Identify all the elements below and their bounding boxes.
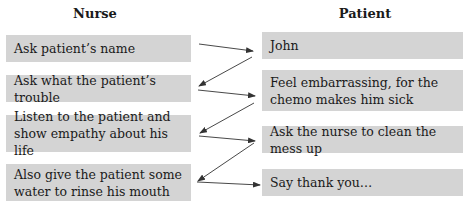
patient-column-title: Patient (310, 6, 420, 21)
nurse-step-2: Ask what the patient’s trouble (6, 75, 191, 102)
arrow-patient1-to-nurse2 (199, 57, 252, 86)
nurse-step-2-text: Ask what the patient’s trouble (14, 72, 191, 106)
patient-reply-1: John (262, 32, 463, 59)
nurse-step-3: Listen to the patient and show empathy a… (6, 115, 191, 152)
nurse-step-1: Ask patient’s name (6, 35, 191, 62)
patient-reply-4: Say thank you… (262, 169, 463, 196)
arrow-nurse1-to-patient1 (199, 44, 253, 51)
nurse-column-title: Nurse (40, 6, 150, 21)
nurse-step-1-text: Ask patient’s name (14, 40, 135, 57)
nurse-step-3-text: Listen to the patient and show empathy a… (14, 108, 171, 159)
arrow-nurse4-to-patient4 (197, 182, 260, 185)
patient-reply-2: Feel embarrassing, for the chemo makes h… (262, 70, 463, 111)
nurse-step-4: Also give the patient some water to rins… (6, 164, 191, 201)
patient-reply-3-text: Ask the nurse to clean the mess up (270, 123, 463, 157)
patient-reply-3: Ask the nurse to clean the mess up (262, 126, 463, 153)
arrow-nurse2-to-patient2 (198, 90, 255, 96)
arrow-patient3-to-nurse4 (198, 143, 254, 181)
arrow-patient2-to-nurse3 (200, 103, 254, 133)
patient-reply-2-text: Feel embarrassing, for the chemo makes h… (270, 74, 451, 108)
nurse-step-4-text: Also give the patient some water to rins… (14, 166, 183, 200)
arrow-nurse3-to-patient3 (199, 136, 255, 141)
patient-reply-4-text: Say thank you… (270, 174, 372, 191)
patient-reply-1-text: John (270, 37, 299, 54)
